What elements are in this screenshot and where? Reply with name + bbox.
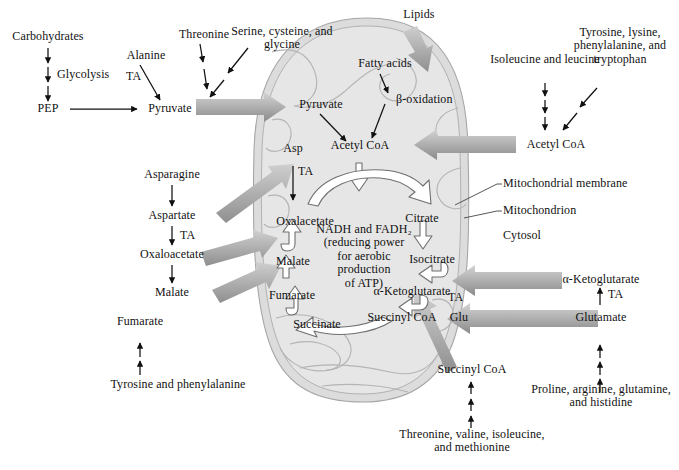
label-glycolysis: Glycolysis xyxy=(57,68,109,81)
label-pyruvate-cytosol: Pyruvate xyxy=(148,102,191,115)
label-acetyl-coa-cytosol: Acetyl CoA xyxy=(527,138,586,151)
label-asparagine: Asparagine xyxy=(144,168,200,181)
label-alpha-ketoglutarate-cytosol: α-Ketoglutarate xyxy=(562,273,639,286)
label-fatty-acids: Fatty acids xyxy=(358,57,411,70)
label-tyrosine-lysine-phenylalanine-tryptophan: Tyrosine, lysine, phenylalanine, and try… xyxy=(560,26,679,66)
figure-root: Carbohydrates Glycolysis PEP Pyruvate Al… xyxy=(0,0,679,470)
label-threonine: Threonine xyxy=(179,28,229,41)
label-aspartate: Aspartate xyxy=(149,209,196,222)
cycle-node-succinyl-coa: Succinyl CoA xyxy=(368,311,437,324)
label-mitochondrion: Mitochondrion xyxy=(503,204,576,217)
nadh-note-line: for aerobic xyxy=(316,250,411,263)
label-mitochondrial-membrane: Mitochondrial membrane xyxy=(503,177,628,190)
label-asp-ta: TA xyxy=(298,165,313,178)
cycle-node-malate: Malate xyxy=(276,255,310,268)
cycle-node-fumarate: Fumarate xyxy=(269,289,315,302)
block-arrow-ketoglutarate-in xyxy=(452,265,562,296)
label-cytosol: Cytosol xyxy=(503,229,541,242)
label-aspartate-ta: TA xyxy=(180,229,195,242)
nadh-note-line: production xyxy=(316,263,411,276)
cycle-node-succinate: Succinate xyxy=(293,318,341,331)
nadh-note-line: of ATP) xyxy=(316,277,411,290)
label-glu: Glu xyxy=(450,311,468,324)
nadh-note-line: (reducing power xyxy=(316,236,411,249)
label-asp: Asp xyxy=(283,142,303,155)
nadh-note-line: NADH and FADH₂ xyxy=(316,223,411,236)
label-threonine-valine-isoleucine-methionine: Threonine, valine, isoleucine, and methi… xyxy=(397,428,547,455)
label-succinyl-coa-cytosol: Succinyl CoA xyxy=(438,363,507,376)
label-nadh-fadh2-note: NADH and FADH₂(reducing powerfor aerobic… xyxy=(316,223,411,290)
label-oxaloacetate-cytosol: Oxaloacetate xyxy=(140,248,204,261)
label-malate-cytosol: Malate xyxy=(155,286,189,299)
cycle-node-isocitrate: Isocitrate xyxy=(409,253,455,266)
label-pyruvate-matrix: Pyruvate xyxy=(299,98,342,111)
label-glutamate-ta: TA xyxy=(608,288,623,301)
label-acetyl-coa-matrix: Acetyl CoA xyxy=(331,139,390,152)
label-fumarate-cytosol: Fumarate xyxy=(117,315,163,328)
label-proline-arginine-glutamine-histidine: Proline, arginine, glutamine, and histid… xyxy=(531,383,671,410)
label-beta-oxidation: β-oxidation xyxy=(396,93,453,106)
label-serine-cysteine-glycine: Serine, cysteine, and glycine xyxy=(223,25,341,52)
label-lipids: Lipids xyxy=(403,8,434,21)
label-glutamate: Glutamate xyxy=(576,311,627,324)
label-pep: PEP xyxy=(38,102,59,115)
label-alanine-ta: TA xyxy=(126,70,141,83)
label-carbohydrates: Carbohydrates xyxy=(12,30,83,43)
label-alanine: Alanine xyxy=(127,49,166,62)
label-tyrosine-phenylalanine: Tyrosine and phenylalanine xyxy=(110,378,245,391)
